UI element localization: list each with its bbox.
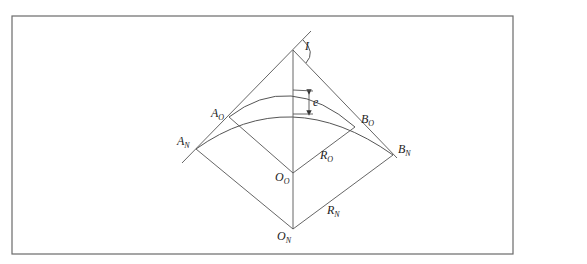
label-center-new: ON — [277, 229, 292, 245]
radius-new-b — [293, 155, 393, 229]
label-radius-new: RN — [326, 203, 340, 219]
figure-frame — [12, 16, 513, 254]
back-tangent-line — [182, 31, 311, 163]
label-intersection-angle: I — [304, 39, 310, 53]
label-shift-e: e — [313, 95, 319, 109]
label-a-old: AO — [210, 106, 224, 122]
shift-tick-top — [293, 90, 313, 91]
label-b-new: BN — [398, 142, 411, 158]
label-radius-old: RO — [319, 148, 333, 164]
curve-shift-diagram: I e AO AN BO BN OO ON RO RN — [0, 0, 587, 264]
radius-old-a — [229, 117, 293, 173]
label-center-old: OO — [275, 170, 290, 186]
old-curve-arc — [229, 96, 355, 127]
label-a-new: AN — [176, 134, 190, 150]
label-b-old: BO — [361, 112, 374, 128]
radius-new-a — [196, 149, 293, 229]
